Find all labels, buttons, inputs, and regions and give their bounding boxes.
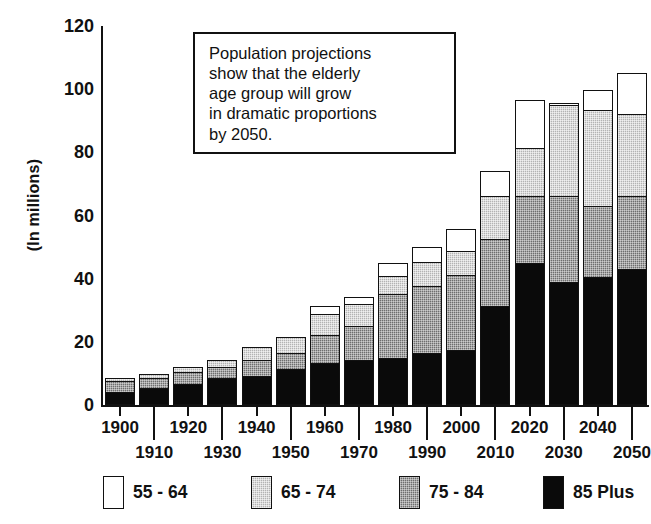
bar-segment-1950-65-74 bbox=[276, 337, 306, 354]
x-separator-1990 bbox=[426, 414, 428, 440]
legend-item-85Plus: 85 Plus bbox=[543, 472, 634, 512]
x-label-2020: 2020 bbox=[505, 418, 555, 438]
y-tick-label-60: 60 bbox=[50, 207, 94, 225]
x-tick-2040 bbox=[597, 407, 599, 416]
legend-swatch-black bbox=[543, 476, 564, 509]
x-tick-1900 bbox=[119, 407, 121, 416]
legend-swatch-dark-gray bbox=[399, 476, 420, 509]
bar-segment-1900-85Plus bbox=[105, 392, 135, 405]
population-projection-chart: (In millions) 020406080100120 1900191019… bbox=[0, 0, 651, 524]
legend-label-55-64: 55 - 64 bbox=[133, 482, 187, 503]
bar-segment-1950-75-84 bbox=[276, 353, 306, 370]
y-tick-label-20: 20 bbox=[50, 333, 94, 351]
x-label-2010: 2010 bbox=[470, 443, 520, 463]
bar-segment-2040-85Plus bbox=[583, 277, 613, 405]
bar-segment-2050-75-84 bbox=[617, 196, 647, 270]
x-label-1980: 1980 bbox=[368, 418, 418, 438]
bar-1960 bbox=[310, 306, 340, 405]
y-tick-label-80: 80 bbox=[50, 143, 94, 161]
bar-segment-1980-65-74 bbox=[378, 276, 408, 296]
x-label-1930: 1930 bbox=[197, 443, 247, 463]
bar-2030 bbox=[549, 103, 579, 405]
bar-segment-1990-65-74 bbox=[412, 262, 442, 288]
x-label-1910: 1910 bbox=[129, 443, 179, 463]
x-label-2030: 2030 bbox=[539, 443, 589, 463]
bar-segment-1940-85Plus bbox=[242, 376, 272, 405]
bar-segment-2040-55-64 bbox=[583, 90, 613, 112]
bar-segment-1950-85Plus bbox=[276, 369, 306, 405]
bar-segment-2010-75-84 bbox=[480, 239, 510, 307]
bar-segment-1960-85Plus bbox=[310, 363, 340, 405]
bar-1930 bbox=[207, 360, 237, 405]
x-separator-1970 bbox=[358, 414, 360, 440]
bar-1950 bbox=[276, 337, 306, 405]
bar-segment-1970-85Plus bbox=[344, 360, 374, 405]
x-label-1970: 1970 bbox=[334, 443, 384, 463]
bar-1900 bbox=[105, 378, 135, 405]
bar-2020 bbox=[515, 100, 545, 405]
bar-1920 bbox=[173, 367, 203, 405]
chart-legend: 55 - 6465 - 7475 - 8485 Plus bbox=[103, 472, 643, 514]
y-tick-label-120: 120 bbox=[50, 17, 94, 35]
bar-segment-2020-55-64 bbox=[515, 100, 545, 149]
bar-segment-1970-75-84 bbox=[344, 326, 374, 362]
bar-segment-2040-75-84 bbox=[583, 206, 613, 279]
x-separator-1910 bbox=[153, 414, 155, 440]
x-label-1920: 1920 bbox=[163, 418, 213, 438]
legend-item-65-74: 65 - 74 bbox=[251, 472, 335, 512]
bar-segment-2010-55-64 bbox=[480, 171, 510, 197]
x-tick-1960 bbox=[324, 407, 326, 416]
bar-1980 bbox=[378, 263, 408, 405]
bar-2010 bbox=[480, 171, 510, 405]
bar-segment-2020-85Plus bbox=[515, 263, 545, 405]
legend-label-65-74: 65 - 74 bbox=[281, 482, 335, 503]
x-label-1960: 1960 bbox=[300, 418, 350, 438]
x-label-1900: 1900 bbox=[95, 418, 145, 438]
bar-1940 bbox=[242, 347, 272, 405]
bar-2040 bbox=[583, 90, 613, 405]
bar-segment-2020-75-84 bbox=[515, 196, 545, 265]
bar-segment-2010-85Plus bbox=[480, 306, 510, 405]
bar-2050 bbox=[617, 73, 647, 405]
annotation-text: Population projections show that the eld… bbox=[209, 43, 442, 144]
x-tick-1980 bbox=[392, 407, 394, 416]
bar-segment-1970-65-74 bbox=[344, 304, 374, 327]
legend-item-55-64: 55 - 64 bbox=[103, 472, 187, 512]
y-tick-label-40: 40 bbox=[50, 270, 94, 288]
bar-segment-1930-85Plus bbox=[207, 378, 237, 405]
bar-segment-2040-65-74 bbox=[583, 110, 613, 207]
x-separator-2050 bbox=[631, 414, 633, 440]
bar-segment-1940-75-84 bbox=[242, 360, 272, 377]
bar-segment-2000-65-74 bbox=[446, 251, 476, 277]
x-label-2040: 2040 bbox=[573, 418, 623, 438]
x-tick-1920 bbox=[187, 407, 189, 416]
x-axis-line bbox=[101, 405, 649, 407]
bar-2000 bbox=[446, 229, 476, 405]
legend-label-75-84: 75 - 84 bbox=[429, 482, 483, 503]
x-separator-2030 bbox=[563, 414, 565, 440]
x-tick-2020 bbox=[529, 407, 531, 416]
bar-segment-1960-75-84 bbox=[310, 335, 340, 364]
bar-segment-2020-65-74 bbox=[515, 148, 545, 198]
bar-segment-2050-55-64 bbox=[617, 73, 647, 116]
legend-label-85Plus: 85 Plus bbox=[573, 482, 634, 503]
y-axis-tick-labels: 020406080100120 bbox=[50, 0, 94, 524]
bar-segment-1910-85Plus bbox=[139, 388, 169, 405]
bar-segment-2000-55-64 bbox=[446, 229, 476, 252]
bar-segment-2030-65-74 bbox=[549, 105, 579, 198]
bar-segment-1990-75-84 bbox=[412, 286, 442, 354]
x-label-1990: 1990 bbox=[402, 443, 452, 463]
bar-segment-1920-85Plus bbox=[173, 384, 203, 405]
bar-segment-2000-85Plus bbox=[446, 350, 476, 405]
bar-segment-2050-85Plus bbox=[617, 269, 647, 405]
bar-segment-1990-85Plus bbox=[412, 353, 442, 405]
bar-segment-2030-85Plus bbox=[549, 282, 579, 405]
x-label-1940: 1940 bbox=[232, 418, 282, 438]
bar-segment-2010-65-74 bbox=[480, 196, 510, 241]
bar-segment-2030-75-84 bbox=[549, 196, 579, 283]
bar-1990 bbox=[412, 247, 442, 405]
bar-segment-1960-65-74 bbox=[310, 314, 340, 337]
y-axis-title: (In millions) bbox=[25, 125, 43, 285]
annotation-callout: Population projections show that the eld… bbox=[193, 32, 456, 154]
x-separator-1930 bbox=[221, 414, 223, 440]
